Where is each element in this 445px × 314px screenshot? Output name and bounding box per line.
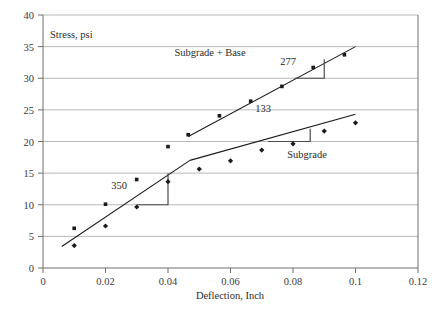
- series-label-subgrade-base: Subgrade + Base: [174, 47, 246, 58]
- x-tick-label-006: 0.06: [221, 276, 239, 287]
- y-tick-label-10: 10: [24, 200, 35, 211]
- x-tick-label-008: 0.08: [284, 276, 302, 287]
- y-tick-label-20: 20: [24, 137, 35, 148]
- x-tick-label-004: 0.04: [159, 276, 178, 287]
- slope-label-277: 277: [280, 56, 296, 67]
- y-tickmarks: [38, 15, 43, 268]
- y-tick-label-35: 35: [24, 42, 35, 53]
- x-tickmarks: [43, 268, 418, 273]
- x-tick-label-01: 0.1: [349, 276, 362, 287]
- x-tick-label-012: 0.12: [409, 276, 427, 287]
- y-tick-label-25: 25: [24, 105, 35, 116]
- y-tick-label-30: 30: [24, 73, 35, 84]
- slope-label-350: 350: [111, 180, 127, 191]
- y-tick-label-0: 0: [29, 263, 34, 274]
- series-label-subgrade: Subgrade: [287, 149, 327, 160]
- y-tick-label-40: 40: [24, 10, 35, 21]
- x-tick-labels: 0 0.02 0.04 0.06 0.08 0.1 0.12: [40, 276, 427, 287]
- y-tick-labels: 40 35 30 25 20 15 10 5 0: [24, 10, 35, 274]
- stress-deflection-chart: 40 35 30 25 20 15 10 5 0 0 0.02 0.04 0.0…: [0, 0, 445, 314]
- y-axis-title: Stress, psi: [50, 29, 93, 40]
- slope-label-133: 133: [255, 103, 271, 114]
- x-tick-label-0: 0: [40, 276, 45, 287]
- x-axis-title: Deflection, Inch: [196, 290, 265, 301]
- y-tick-label-5: 5: [29, 231, 34, 242]
- chart-root: 40 35 30 25 20 15 10 5 0 0 0.02 0.04 0.0…: [0, 0, 445, 314]
- x-tick-label-002: 0.02: [96, 276, 114, 287]
- y-tick-label-15: 15: [24, 168, 35, 179]
